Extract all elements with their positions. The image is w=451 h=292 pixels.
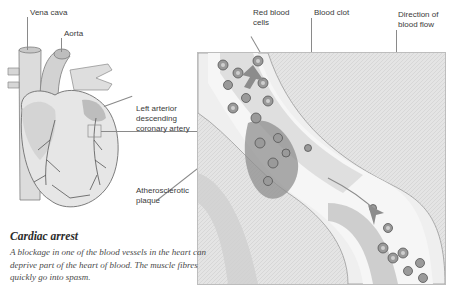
label-rbc-line2: cells [253,18,289,28]
label-plaque-line2: plaque [136,196,189,206]
label-lad-line2: descending [136,114,190,124]
label-rbc-line1: Red blood [253,8,289,18]
caption-body: A blockage in one of the blood vessels i… [10,246,210,284]
label-lad: Left arterior descending coronary artery [136,104,190,134]
label-vena-cava: Vena cava [30,8,67,18]
label-plaque-line1: Atherosclerotic [136,186,189,196]
label-flow-line1: Direction of [398,10,438,20]
artery-closeup-panel [197,52,446,285]
caption-title: Cardiac arrest [10,230,78,242]
label-plaque: Atherosclerotic plaque [136,186,189,206]
aorta-leader [61,38,62,52]
label-blood-clot: Blood clot [314,8,349,18]
label-red-blood-cells: Red blood cells [253,8,289,28]
label-aorta: Aorta [64,29,83,39]
label-direction-of-flow: Direction of blood flow [398,10,438,30]
artery-closeup [198,53,445,284]
label-lad-line1: Left arterior [136,104,190,114]
vena-cava-leader [27,17,28,50]
label-flow-line2: blood flow [398,20,438,30]
label-lad-line3: coronary artery [136,124,190,134]
